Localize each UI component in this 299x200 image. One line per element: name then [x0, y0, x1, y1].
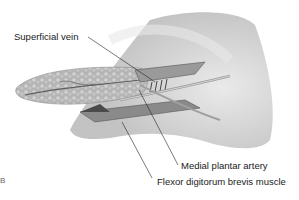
- label-superficial-vein: Superficial vein: [14, 32, 78, 42]
- label-flexor-digitorum-brevis: Flexor digitorum brevis muscle: [157, 177, 286, 187]
- panel-letter: B: [0, 176, 5, 185]
- anatomy-figure: Superficial vein Medial plantar artery F…: [0, 0, 299, 200]
- label-medial-plantar-artery: Medial plantar artery: [181, 161, 268, 171]
